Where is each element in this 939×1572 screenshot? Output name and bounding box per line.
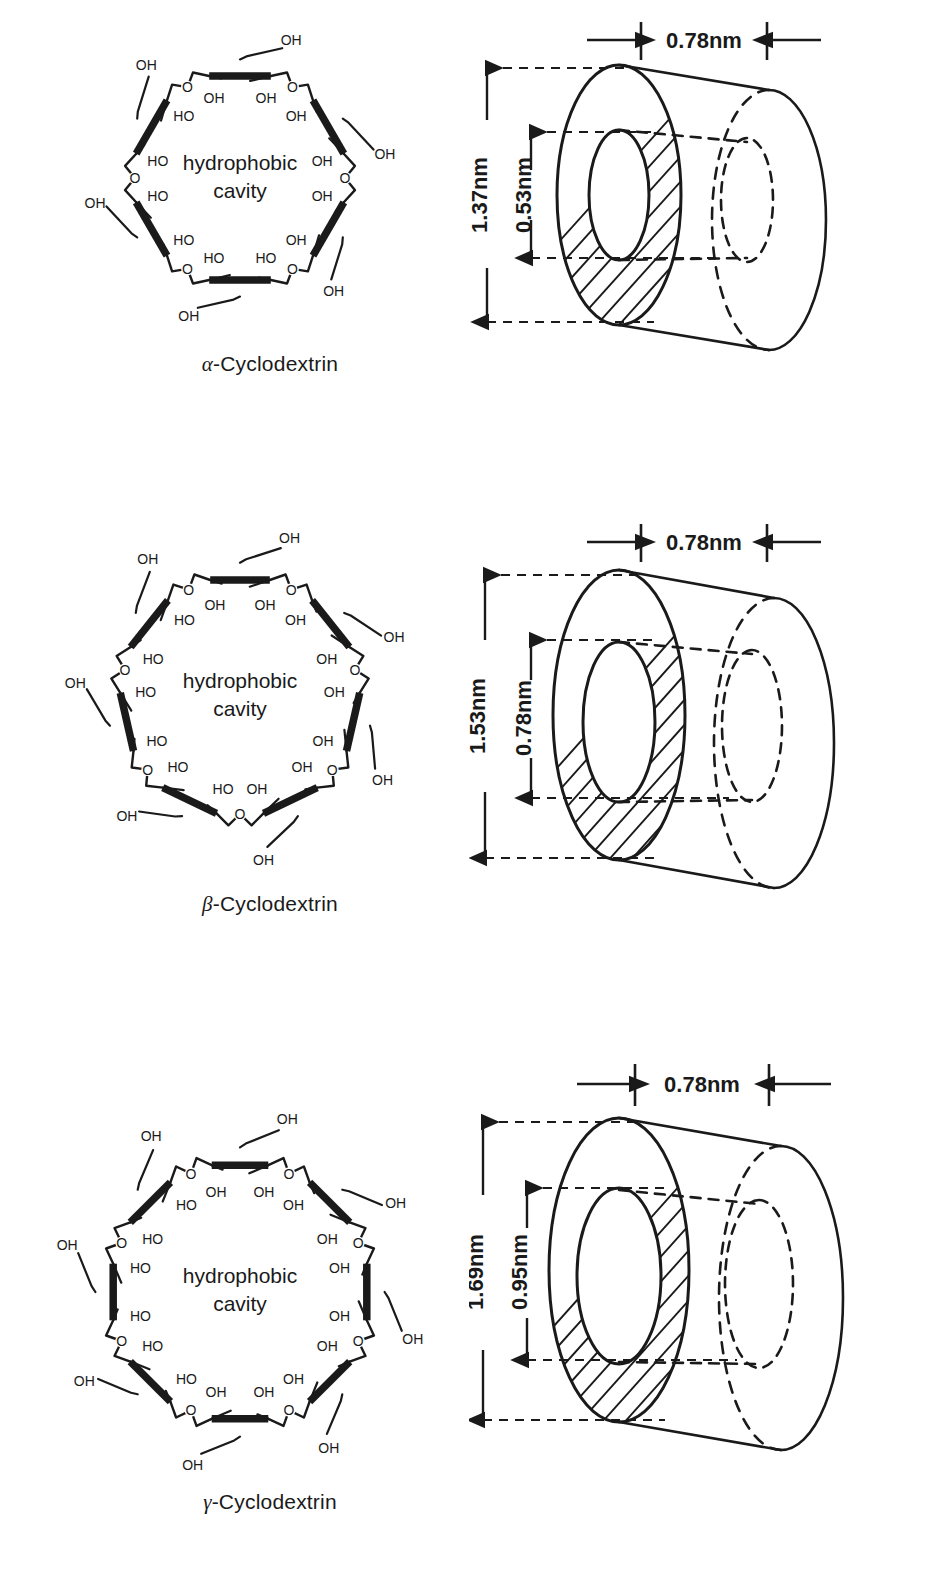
caption-alpha: α-Cyclodextrin	[40, 352, 500, 377]
hydroxyl-label: OH	[253, 1384, 274, 1400]
hydroxyl-label: OH	[318, 1440, 339, 1456]
hydroxyl-label: HO	[173, 108, 194, 124]
hydroxyl-label: HO	[174, 612, 195, 628]
hydroxyl-label: OH	[277, 1111, 298, 1127]
oxygen-label: O	[287, 261, 298, 277]
hydroxyl-label: HO	[176, 1371, 197, 1387]
hydroxyl-label: OH	[283, 1197, 304, 1213]
panel-beta-cyclodextrin: OOHOHOHOOHOHOHOOHOHOHOOHOHOHOOHHOHOOOHHO…	[0, 500, 939, 1020]
hydroxyl-label: OH	[204, 597, 225, 613]
hydroxyl-label: OH	[279, 530, 300, 546]
caption-gamma-greek: γ	[203, 1490, 211, 1514]
gamma-ring-svg: OOHOHOHOOHOHOHOOHOHOHOOHOHOHOOHOHOHOOHHO…	[40, 1090, 440, 1490]
hydroxyl-label: HO	[135, 684, 156, 700]
hydroxyl-label: HO	[130, 1260, 151, 1276]
hydroxyl-label: OH	[324, 684, 345, 700]
cavity-label-line2: cavity	[213, 1292, 267, 1315]
oxygen-label: O	[340, 170, 351, 186]
oxygen-label: O	[235, 806, 246, 822]
oxygen-label: O	[142, 762, 153, 778]
gamma-outer-diameter-label: 1.69nm	[469, 1234, 488, 1310]
hydroxyl-label: OH	[253, 1184, 274, 1200]
oxygen-label: O	[186, 1402, 197, 1418]
hydroxyl-label: OH	[283, 1371, 304, 1387]
hydroxyl-label: OH	[312, 188, 333, 204]
hydroxyl-label: OH	[312, 153, 333, 169]
cavity-label-line1: hydrophobic	[183, 151, 297, 174]
hydroxyl-label: OH	[372, 772, 393, 788]
alpha-frustum-svg: 0.78nm 1.37nm 0.53nm	[469, 20, 939, 380]
hydroxyl-label: HO	[173, 232, 194, 248]
alpha-rim-width-label: 0.78nm	[666, 28, 742, 53]
hydroxyl-label: OH	[255, 597, 276, 613]
beta-ring-svg: OOHOHOHOOHOHOHOOHOHOHOOHOHOHOOHHOHOOOHHO…	[40, 500, 440, 890]
oxygen-label: O	[350, 662, 361, 678]
hydroxyl-label: OH	[137, 551, 158, 567]
hydroxyl-label: HO	[213, 781, 234, 797]
gamma-rim-width-label: 0.78nm	[664, 1072, 740, 1097]
alpha-3d-diagram: 0.78nm 1.37nm 0.53nm	[469, 20, 939, 380]
beta-frustum-svg: 0.78nm 1.53nm 0.78nm	[469, 520, 939, 920]
hydroxyl-label: HO	[142, 1231, 163, 1247]
hydroxyl-label: HO	[142, 1338, 163, 1354]
alpha-cavity-diameter-label: 0.53nm	[511, 157, 536, 233]
caption-gamma: γ-Cyclodextrin	[40, 1490, 500, 1515]
oxygen-label: O	[353, 1235, 364, 1251]
oxygen-label: O	[287, 79, 298, 95]
hydroxyl-label: HO	[204, 250, 225, 266]
caption-beta-greek: β	[202, 892, 213, 916]
oxygen-label: O	[183, 582, 194, 598]
beta-molecular-structure: OOHOHOHOOHOHOHOOHOHOHOOHOHOHOOHHOHOOOHHO…	[40, 500, 460, 890]
hydroxyl-label: OH	[286, 232, 307, 248]
hydroxyl-label: OH	[323, 283, 344, 299]
beta-front-rim	[553, 570, 685, 860]
hydroxyl-label: OH	[374, 146, 395, 162]
hydroxyl-label: OH	[253, 852, 274, 868]
oxygen-label: O	[186, 1166, 197, 1182]
hydroxyl-label: HO	[176, 1197, 197, 1213]
hydroxyl-label: OH	[316, 651, 337, 667]
oxygen-label: O	[182, 79, 193, 95]
hydroxyl-label: HO	[143, 651, 164, 667]
oxygen-label: O	[353, 1333, 364, 1349]
hydroxyl-label: OH	[402, 1331, 423, 1347]
gamma-3d-diagram: 0.78nm 1.69nm 0.95nm	[469, 1060, 939, 1480]
hydroxyl-label: HO	[130, 1308, 151, 1324]
panel-alpha-cyclodextrin: OOHOHOHOOHOHOHOOHOHOHOOHHOHOOOHHOHOOOHHO…	[0, 0, 939, 420]
hydroxyl-label: OH	[57, 1237, 78, 1253]
alpha-molecular-structure: OOHOHOHOOHOHOHOOHOHOHOOHHOHOOOHHOHOOOHHO…	[40, 0, 460, 350]
caption-alpha-greek: α	[202, 352, 213, 376]
hydroxyl-label: OH	[285, 612, 306, 628]
beta-outer-diameter-label: 1.53nm	[469, 678, 490, 754]
caption-alpha-rest: -Cyclodextrin	[213, 352, 338, 375]
hydroxyl-label: OH	[116, 808, 137, 824]
hydroxyl-label: OH	[281, 32, 302, 48]
oxygen-label: O	[130, 170, 141, 186]
hydroxyl-label: OH	[85, 195, 106, 211]
hydroxyl-label: OH	[206, 1384, 227, 1400]
hydroxyl-label: HO	[167, 759, 188, 775]
beta-rim-width-label: 0.78nm	[666, 530, 742, 555]
hydroxyl-label: OH	[206, 1184, 227, 1200]
gamma-frustum-svg: 0.78nm 1.69nm 0.95nm	[469, 1060, 939, 1480]
oxygen-label: O	[284, 1402, 295, 1418]
caption-beta-rest: -Cyclodextrin	[213, 892, 338, 915]
cavity-label-line2: cavity	[213, 697, 267, 720]
hydroxyl-label: OH	[286, 108, 307, 124]
hydroxyl-label: OH	[384, 629, 405, 645]
hydroxyl-label: HO	[256, 250, 277, 266]
cavity-label-line1: hydrophobic	[183, 1264, 297, 1287]
oxygen-label: O	[182, 261, 193, 277]
oxygen-label: O	[120, 662, 131, 678]
cavity-label-line2: cavity	[213, 179, 267, 202]
gamma-cavity-diameter-label: 0.95nm	[507, 1234, 532, 1310]
beta-hatched-annulus	[524, 520, 809, 920]
beta-cavity-diameter-label: 0.78nm	[511, 680, 536, 756]
hydroxyl-label: OH	[246, 781, 267, 797]
caption-gamma-rest: -Cyclodextrin	[212, 1490, 337, 1513]
hydroxyl-label: OH	[178, 308, 199, 324]
oxygen-label: O	[284, 1166, 295, 1182]
hydroxyl-label: HO	[146, 733, 167, 749]
panel-gamma-cyclodextrin: OOHOHOHOOHOHOHOOHOHOHOOHOHOHOOHOHOHOOHHO…	[0, 1040, 939, 1572]
hydroxyl-label: OH	[74, 1373, 95, 1389]
